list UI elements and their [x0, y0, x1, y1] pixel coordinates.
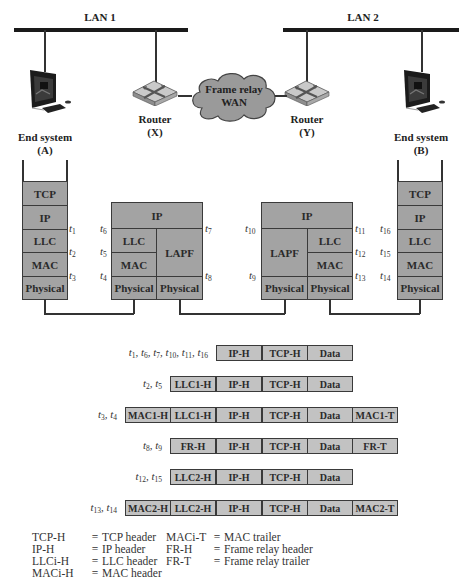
router-icon [284, 80, 330, 106]
layer-mac: MAC [22, 252, 68, 277]
frame-field: LLC2-H [170, 500, 216, 516]
legend-entry: FR-T=Frame relay trailer [166, 555, 313, 567]
frame-field: MAC2-T [352, 500, 398, 516]
frame-field: MAC2-H [125, 500, 171, 516]
time-label-t13: t13 [355, 269, 366, 283]
time-label-t10: t10 [245, 222, 256, 236]
legend-entry: MACi-H=MAC header [32, 567, 162, 579]
lan1-label: LAN 1 [80, 11, 120, 23]
layer-mac: MAC [307, 252, 353, 277]
frame-field: Data [307, 469, 353, 485]
time-label-t6: t6 [100, 222, 107, 236]
layer-ip: IP [111, 202, 203, 229]
wire [419, 299, 421, 314]
frame-time-label: t12, t15 [0, 470, 162, 484]
lan2-bus [283, 28, 459, 32]
time-label-t15: t15 [380, 245, 391, 259]
frame-field: MAC1-T [352, 407, 398, 423]
layer-physical: Physical [22, 276, 68, 300]
legend-entry: MACi-T=MAC trailer [166, 531, 313, 543]
time-label-t4: t4 [100, 269, 107, 283]
end-a-id: (A) [4, 144, 86, 156]
layer-physical: Physical [156, 276, 203, 300]
time-label-t2: t2 [69, 245, 76, 259]
wire [329, 299, 331, 314]
wire [179, 313, 285, 315]
frame-field: TCP-H [262, 345, 308, 361]
lan2-drop-b [421, 30, 423, 72]
layer-tcp: TCP [22, 181, 68, 206]
wire [133, 299, 135, 314]
frame-field: FR-T [352, 438, 398, 454]
layer-llc: LLC [397, 229, 443, 253]
frame-field: IP-H [216, 407, 262, 423]
lan2-drop-y [306, 30, 308, 84]
time-label-t9: t9 [249, 269, 256, 283]
frame-field: IP-H [216, 345, 262, 361]
layer-physical: Physical [307, 276, 353, 300]
end-a-name: End system [4, 131, 86, 143]
time-label-t7: t7 [205, 222, 212, 236]
frame-field: Data [307, 345, 353, 361]
router-y-id: (Y) [282, 126, 332, 138]
legend-entry: LLCi-H=LLC header [32, 555, 162, 567]
wan-label-line1: Frame relay [198, 83, 270, 95]
layer-mac: MAC [397, 252, 443, 277]
legend-entry: TCP-H=TCP header [32, 531, 162, 543]
layer-tcp: TCP [397, 181, 443, 206]
frame-field: IP-H [216, 469, 262, 485]
frame-field: Data [307, 376, 353, 392]
stack-b-wall [441, 160, 443, 182]
frame-time-label: t1, t6, t7, t10, t11, t16 [18, 346, 208, 360]
frame-time-label: t2, t5 [0, 377, 162, 391]
frame-time-label: t3, t4 [0, 408, 117, 422]
time-label-t12: t12 [355, 245, 366, 259]
layer-lapf: LAPF [261, 228, 308, 277]
layer-mac: MAC [111, 252, 157, 277]
frame-field: FR-H [170, 438, 216, 454]
legend-entry: IP-H=IP header [32, 543, 162, 555]
stack-b-wall [397, 160, 399, 182]
lan1-drop-a [44, 30, 46, 72]
frame-field: IP-H [216, 438, 262, 454]
wire [329, 313, 420, 315]
frame-field: Data [307, 407, 353, 423]
wire [179, 299, 181, 314]
frame-field: LLC2-H [170, 469, 216, 485]
time-label-t8: t8 [205, 269, 212, 283]
time-label-t16: t16 [380, 222, 391, 236]
router-x-name: Router [130, 113, 180, 125]
frame-field: IP-H [216, 500, 262, 516]
computer-icon [400, 68, 448, 116]
layer-llc: LLC [307, 228, 353, 253]
frame-field: IP-H [216, 376, 262, 392]
frame-field: TCP-H [262, 376, 308, 392]
stack-a-wall [66, 160, 68, 182]
frame-field: TCP-H [262, 438, 308, 454]
layer-ip: IP [261, 202, 353, 229]
router-icon [132, 80, 178, 106]
router-y-name: Router [282, 113, 332, 125]
time-label-t3: t3 [69, 269, 76, 283]
frame-time-label: t13, t14 [0, 501, 117, 515]
time-label-t1: t1 [69, 222, 76, 236]
frame-field: LLC1-H [170, 407, 216, 423]
frame-field: TCP-H [262, 500, 308, 516]
time-label-t5: t5 [100, 245, 107, 259]
layer-llc: LLC [22, 229, 68, 253]
wire [284, 299, 286, 314]
stack-a-wall [22, 160, 24, 182]
end-b-name: End system [380, 131, 462, 143]
layer-physical: Physical [261, 276, 308, 300]
frame-time-label: t8, t9 [0, 439, 162, 453]
time-label-t11: t11 [355, 222, 365, 236]
lan2-label: LAN 2 [343, 11, 383, 23]
frame-field: Data [307, 500, 353, 516]
legend-left: TCP-H=TCP header IP-H=IP header LLCi-H=L… [32, 531, 162, 579]
layer-ip: IP [22, 205, 68, 230]
layer-physical: Physical [111, 276, 157, 300]
layer-lapf: LAPF [156, 228, 203, 277]
frame-field: Data [307, 438, 353, 454]
layer-physical: Physical [397, 276, 443, 300]
frame-field: LLC1-H [170, 376, 216, 392]
